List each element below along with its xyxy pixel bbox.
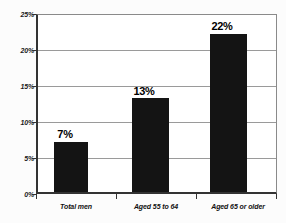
y-axis-tick-label: 0% bbox=[2, 191, 34, 198]
bar-total-men bbox=[54, 142, 88, 192]
bar-aged-55-to-64 bbox=[132, 98, 169, 192]
x-axis-tick-mark bbox=[36, 194, 37, 199]
x-axis-label-total-men: Total men bbox=[36, 203, 116, 210]
bar-value-label: 13% bbox=[118, 85, 170, 97]
bar-chart: 25% 20% 15% 10% 5% 0% 7% 13% 22% Total m… bbox=[0, 0, 286, 223]
y-axis-tick-label: 10% bbox=[2, 119, 34, 126]
y-axis-tick-label: 25% bbox=[2, 11, 34, 18]
plot-area bbox=[36, 14, 277, 194]
x-axis-tick-mark bbox=[276, 194, 277, 199]
bar-value-label: 7% bbox=[40, 128, 90, 140]
bar-aged-65-or-older bbox=[210, 34, 247, 192]
x-axis-label-aged-65-or-older: Aged 65 or older bbox=[196, 203, 280, 210]
x-axis-label-aged-55-to-64: Aged 55 to 64 bbox=[116, 203, 196, 210]
bar-value-label: 22% bbox=[196, 20, 248, 32]
x-axis-tick-mark bbox=[116, 194, 117, 199]
x-axis-tick-mark bbox=[196, 194, 197, 199]
y-axis-tick-label: 20% bbox=[2, 47, 34, 54]
y-axis-tick-label: 5% bbox=[2, 155, 34, 162]
y-axis-tick-label: 15% bbox=[2, 83, 34, 90]
